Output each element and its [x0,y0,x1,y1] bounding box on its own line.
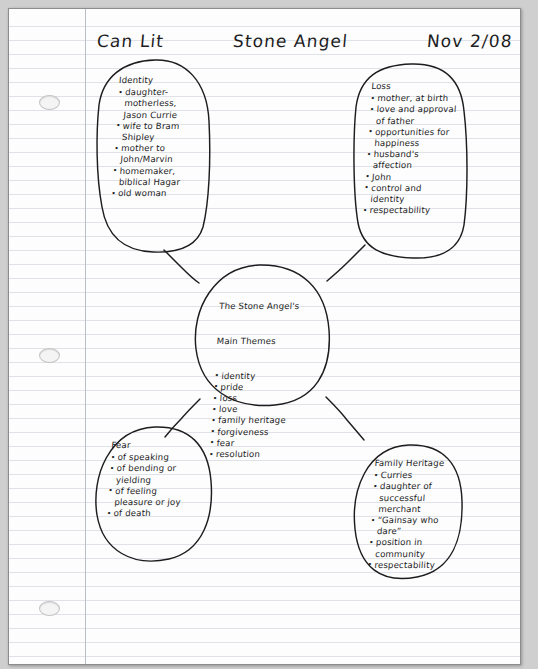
bubble-item-continuation: successful [379,493,473,504]
bubble-heading: Identity [119,75,216,86]
bubble-item: daughter ofsuccessfulmerchant [371,481,473,515]
bubble-heading: Family Heritage [374,458,475,469]
bubble-heading: Fear [111,440,212,451]
bubble-item-continuation: happiness [374,138,472,149]
bubble-item-continuation: John/Marvin [120,154,210,165]
connector-center-family-heritage [326,397,364,440]
bubble-item-continuation: dare” [376,526,470,537]
bubble-item: homemaker,biblical Hagar [111,166,209,188]
screenshot-root: Can Lit Stone Angel Nov 2/08 Identitydau… [0,0,538,669]
bubble-item: of death [106,508,207,519]
bubble-content-fear: Fearof speakingof bending oryieldingof f… [106,440,212,519]
center-heading-line1: The Stone Angel's [219,301,332,312]
looseleaf-paper: Can Lit Stone Angel Nov 2/08 Identitydau… [8,8,521,665]
bubble-item-continuation: biblical Hagar [118,177,208,188]
center-theme-item: resolution [208,449,321,460]
bubble-item: old woman [111,188,208,199]
center-heading-line2: Main Themes [216,336,329,347]
bubble-item: of bending oryielding [109,463,211,485]
bubble-content-identity: Identitydaughter-motherless,Jason Currie… [111,75,216,199]
bubble-item-continuation: yielding [116,475,210,486]
bubble-content-center: The Stone Angel's Main Themes identitypr… [207,279,333,483]
bubble-item: mother toJohn/Marvin [113,143,211,165]
bubble-item: wife to BramShipley [115,121,213,143]
connector-center-identity [164,250,199,283]
center-theme-item: love [212,404,325,415]
center-theme-item: forgiveness [210,427,323,438]
bubble-item: of speaking [110,452,211,463]
bubble-item-continuation: pleasure or joy [114,497,208,508]
bubble-item: of feelingpleasure or joy [107,486,209,508]
center-theme-item: fear [209,438,322,449]
bubble-item: control andidentity [363,183,469,205]
bubble-item-list: of speakingof bending oryieldingof feeli… [106,452,211,519]
bubble-item: John [365,172,470,183]
bubble-item-continuation: Jason Currie [123,110,213,121]
center-theme-item: identity [214,371,327,382]
bubble-item-continuation: motherless, [124,98,214,109]
center-theme-item: pride [213,382,326,393]
bubble-item: respectability [362,205,467,216]
bubble-item: Curries [373,470,474,481]
bubble-item-continuation: of father [376,116,474,127]
center-theme-item: family heritage [211,415,324,426]
bubble-item-continuation: merchant [378,504,472,515]
bubble-item: daughter-motherless,Jason Currie [116,87,214,121]
bubble-item: love and approvalof father [369,104,475,126]
bubble-item: husband'saffection [365,149,471,171]
bubble-content-family-heritage: Family HeritageCurriesdaughter ofsuccess… [367,458,475,571]
bubble-item-list: mother, at birthlove and approvalof fath… [362,93,475,216]
bubble-item: respectability [367,560,468,571]
bubble-item: mother, at birth [370,93,475,104]
header-title: Stone Angel [232,33,348,50]
bubble-item: opportunities forhappiness [367,127,473,149]
header-course: Can Lit [96,33,165,50]
center-theme-item: loss [212,393,325,404]
connector-center-loss [327,245,365,281]
center-theme-list: identitypridelosslovefamily heritageforg… [208,371,326,461]
bubble-item: “Gainsay whodare” [369,515,471,537]
bubble-heading: Loss [371,81,476,92]
bubble-item: position incommunity [368,537,470,559]
bubble-item-list: daughter-motherless,Jason Curriewife to … [111,87,215,199]
bubble-content-loss: Lossmother, at birthlove and approvalof … [362,81,475,216]
bubble-item-continuation: Shipley [122,132,212,143]
header-date: Nov 2/08 [426,33,513,50]
bubble-item-continuation: identity [370,194,468,205]
bubble-item-continuation: affection [372,160,470,171]
bubble-item-list: Curriesdaughter ofsuccessfulmerchant“Gai… [367,470,474,571]
bubble-item-continuation: community [375,549,469,560]
